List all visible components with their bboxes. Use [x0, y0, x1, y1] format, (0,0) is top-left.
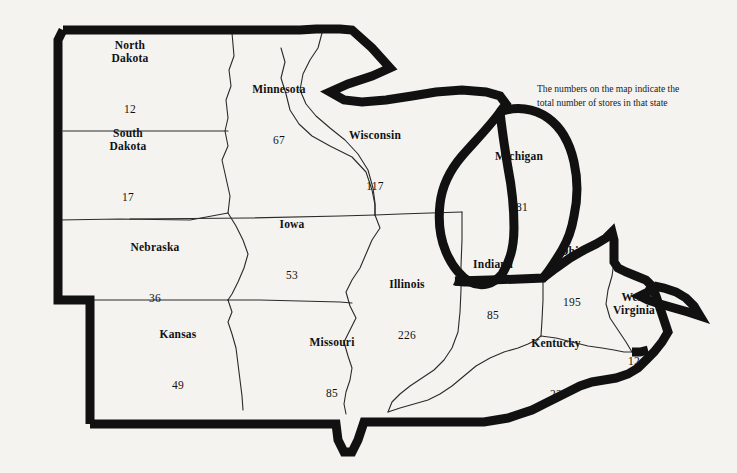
map-background — [0, 0, 737, 473]
map-note: The numbers on the map indicate the tota… — [537, 82, 687, 110]
map-graphic — [0, 0, 737, 473]
store-count-map: North Dakota 12 South Dakota 17 Minnesot… — [0, 0, 737, 473]
